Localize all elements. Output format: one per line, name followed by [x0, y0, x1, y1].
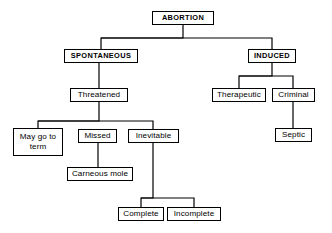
node-therapeutic[interactable]: Therapeutic: [212, 88, 266, 102]
connector-inevitable-bus: [141, 143, 153, 207]
connector-abortion-to-induced: [101, 38, 272, 49]
flowchart-connectors: [0, 0, 332, 233]
node-threatened[interactable]: Threatened: [70, 88, 128, 102]
connector-induced-to-criminal: [239, 76, 293, 88]
flowchart-canvas: ABORTIONSPONTANEOUSINDUCEDThreatenedTher…: [0, 0, 332, 233]
node-missed[interactable]: Missed: [78, 129, 117, 143]
connector-abortion-bus: [101, 25, 183, 49]
node-spontaneous[interactable]: SPONTANEOUS: [64, 49, 138, 63]
connector-induced-bus: [239, 63, 272, 88]
node-septic[interactable]: Septic: [275, 128, 312, 142]
node-may-go-term[interactable]: May go to term: [13, 128, 63, 156]
connector-threatened-bus-left: [38, 102, 99, 128]
node-incomplete[interactable]: Incomplete: [167, 207, 221, 221]
node-abortion[interactable]: ABORTION: [152, 11, 214, 25]
node-criminal[interactable]: Criminal: [272, 88, 315, 102]
node-carneous[interactable]: Carneous mole: [67, 167, 133, 181]
node-induced[interactable]: INDUCED: [248, 49, 296, 63]
node-complete[interactable]: Complete: [118, 207, 164, 221]
connector-inevitable-to-incomplete: [141, 198, 194, 207]
node-inevitable[interactable]: Inevitable: [128, 129, 179, 143]
